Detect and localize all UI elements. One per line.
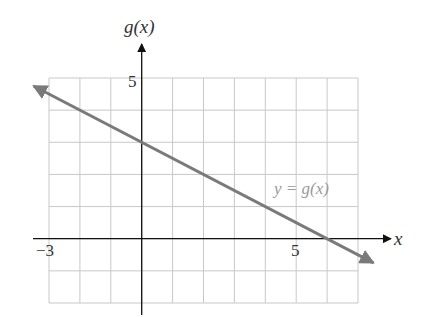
function-graph [0, 0, 427, 317]
curve-label: y = g(x) [274, 180, 329, 197]
tick-label-x-5: 5 [291, 242, 300, 259]
y-axis-label: g(x) [124, 17, 155, 36]
x-axis-label: x [394, 229, 402, 248]
tick-label-y-5: 5 [128, 73, 137, 90]
tick-label-x-neg3: −3 [36, 242, 54, 259]
